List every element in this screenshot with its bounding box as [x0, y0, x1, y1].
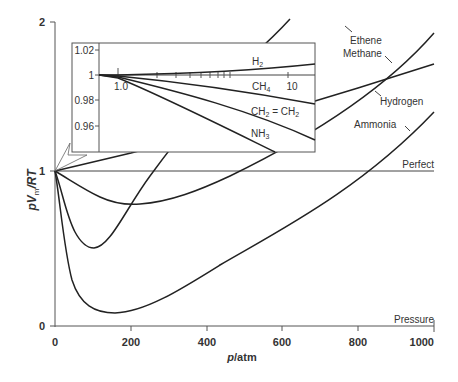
inset-callout-line-2 — [55, 155, 87, 171]
y-axis-label: pVm/RT — [25, 168, 41, 212]
pressure-label: Pressure — [394, 314, 434, 325]
compressibility-chart: 2 1 0 0 200 400 600 800 1000 p/atm pVm/R… — [0, 0, 458, 382]
x-tick-label-600: 600 — [273, 336, 291, 348]
methane-label: Methane — [343, 48, 382, 59]
inset-ethene-label: CH2 = CH2 — [251, 106, 299, 118]
ammonia-leader — [405, 126, 410, 131]
inset-y-tick-0.96: 0.96 — [75, 121, 95, 132]
x-tick-label-0: 0 — [52, 336, 58, 348]
ethene-leader — [345, 26, 352, 32]
inset-y-tick-1: 1 — [88, 70, 94, 81]
y-tick-label-2: 2 — [39, 16, 45, 28]
inset-y-tick-0.98: 0.98 — [75, 95, 95, 106]
ammonia-label: Ammonia — [354, 119, 397, 130]
x-tick-label-1000: 1000 — [410, 336, 434, 348]
x-tick-label-400: 400 — [198, 336, 216, 348]
x-axis-label: p/atm — [226, 351, 257, 363]
x-tick-label-800: 800 — [349, 336, 367, 348]
inset-x-tick-10: 10 — [286, 81, 298, 92]
y-tick-label-1: 1 — [39, 165, 45, 177]
inset-plot: 1.02 1 0.98 0.96 1.0 10 H2 CH4 — [72, 43, 315, 152]
y-tick-label-0: 0 — [39, 320, 45, 332]
perfect-label: Perfect — [402, 159, 434, 170]
inset-y-tick-1.02: 1.02 — [75, 45, 95, 56]
inset-x-tick-1.0: 1.0 — [114, 81, 128, 92]
hydrogen-label: Hydrogen — [380, 96, 423, 107]
inset-callout-line-1 — [55, 143, 70, 171]
methane-leader — [385, 56, 392, 63]
ethene-label: Ethene — [350, 35, 382, 46]
x-tick-label-200: 200 — [122, 336, 140, 348]
